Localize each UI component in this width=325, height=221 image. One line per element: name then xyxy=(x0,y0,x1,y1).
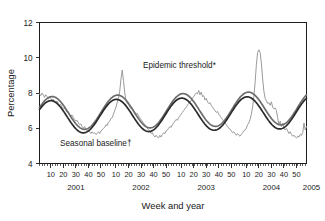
y-tick-label: 12 xyxy=(23,19,33,28)
x-tick-label: 40 xyxy=(84,170,92,179)
x-tick-label: 50 xyxy=(227,170,235,179)
x-axis-tick-labels: 1020304050102030405010203040501020304050 xyxy=(47,170,301,179)
chart-figure: 4681012 10203040501020304050102030405010… xyxy=(0,0,325,221)
x-tick-label: 10 xyxy=(177,170,185,179)
x-tick-label: 50 xyxy=(97,170,105,179)
y-axis-title: Percentage xyxy=(5,69,16,117)
x-tick-label: 30 xyxy=(137,170,145,179)
pneumonia-influenza-mortality-chart: 4681012 10203040501020304050102030405010… xyxy=(0,0,325,221)
x-tick-label: 30 xyxy=(72,170,80,179)
x-tick-label: 40 xyxy=(215,170,223,179)
x-tick-label: 40 xyxy=(280,170,288,179)
x-tick-label: 20 xyxy=(59,170,67,179)
year-label: 2005 xyxy=(303,183,321,192)
x-axis-title: Week and year xyxy=(142,200,205,211)
y-axis-ticks xyxy=(36,23,40,164)
y-tick-label: 6 xyxy=(28,124,33,133)
x-tick-label: 50 xyxy=(162,170,170,179)
year-label: 2001 xyxy=(67,183,84,192)
x-tick-label: 10 xyxy=(47,170,55,179)
x-tick-label: 20 xyxy=(124,170,132,179)
annotation-seasonal-baseline: Seasonal baseline† xyxy=(60,139,131,148)
x-tick-label: 10 xyxy=(242,170,250,179)
y-tick-label: 8 xyxy=(28,89,33,98)
y-tick-label: 4 xyxy=(28,160,33,169)
chart-annotations: Epidemic threshold*Seasonal baseline† xyxy=(60,61,217,148)
x-tick-label: 30 xyxy=(267,170,275,179)
annotation-epidemic-threshold: Epidemic threshold* xyxy=(143,61,217,70)
y-axis-tick-labels: 4681012 xyxy=(23,19,33,169)
year-label: 2004 xyxy=(263,183,281,192)
x-tick-label: 20 xyxy=(190,170,198,179)
year-label: 2002 xyxy=(132,183,149,192)
x-tick-label: 50 xyxy=(292,170,300,179)
x-tick-label: 30 xyxy=(202,170,210,179)
year-label: 2003 xyxy=(198,183,215,192)
x-axis-year-labels: 20012002200320042005 xyxy=(67,183,321,192)
y-tick-label: 10 xyxy=(23,54,33,63)
x-tick-label: 10 xyxy=(112,170,120,179)
x-tick-label: 20 xyxy=(255,170,263,179)
x-tick-label: 40 xyxy=(149,170,157,179)
